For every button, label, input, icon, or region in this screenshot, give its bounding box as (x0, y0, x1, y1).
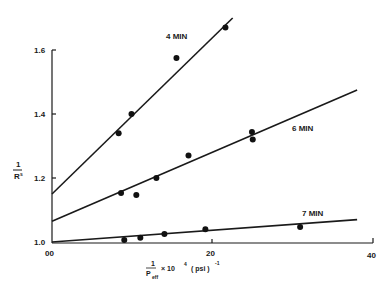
svg-text:s: s (20, 171, 23, 177)
data-point (116, 130, 122, 136)
data-point (133, 192, 139, 198)
data-point (173, 55, 179, 61)
data-point (249, 129, 255, 135)
svg-text:4: 4 (184, 261, 187, 267)
data-point (161, 231, 167, 237)
data-point (137, 235, 143, 241)
x-tick-0: 00 (45, 249, 54, 258)
svg-text:( psi ): ( psi ) (191, 265, 210, 273)
data-point (297, 224, 303, 230)
y-tick-1.6: 1.6 (34, 46, 46, 55)
data-point (186, 153, 192, 159)
y-axis-label: 1 R s (13, 160, 23, 181)
chart: 1.6 1.4 1.2 1.0 00 20 40 1 R s 1 P eff ×… (0, 0, 392, 295)
data-point (153, 175, 159, 181)
data-point (222, 25, 228, 31)
fit-line (52, 18, 233, 194)
svg-text:P: P (146, 270, 151, 277)
x-axis-label: 1 P eff × 10 4 ( psi ) -1 (146, 260, 220, 280)
data-point (250, 137, 256, 143)
y-tick-1.0: 1.0 (34, 238, 46, 247)
svg-text:eff: eff (152, 274, 158, 280)
series-6-min (52, 90, 357, 221)
svg-text:-1: -1 (215, 260, 220, 266)
svg-text:1: 1 (151, 260, 155, 267)
data-point (202, 226, 208, 232)
svg-text:× 10: × 10 (161, 265, 175, 272)
data-point (128, 111, 134, 117)
svg-text:1: 1 (16, 160, 21, 169)
y-tick-1.4: 1.4 (34, 110, 46, 119)
y-axis (52, 50, 56, 243)
fit-line (52, 90, 357, 221)
x-tick-40: 40 (367, 251, 376, 260)
series-label-6min: 6 MIN (292, 124, 314, 133)
series-7-min (52, 220, 357, 243)
data-point (121, 237, 127, 243)
y-tick-1.2: 1.2 (34, 174, 46, 183)
series-label-7min: 7 MIN (302, 209, 324, 218)
x-tick-20: 20 (206, 249, 215, 258)
series-label-4min: 4 MIN (166, 32, 188, 41)
series-4-min (52, 18, 233, 194)
data-point (118, 190, 124, 196)
